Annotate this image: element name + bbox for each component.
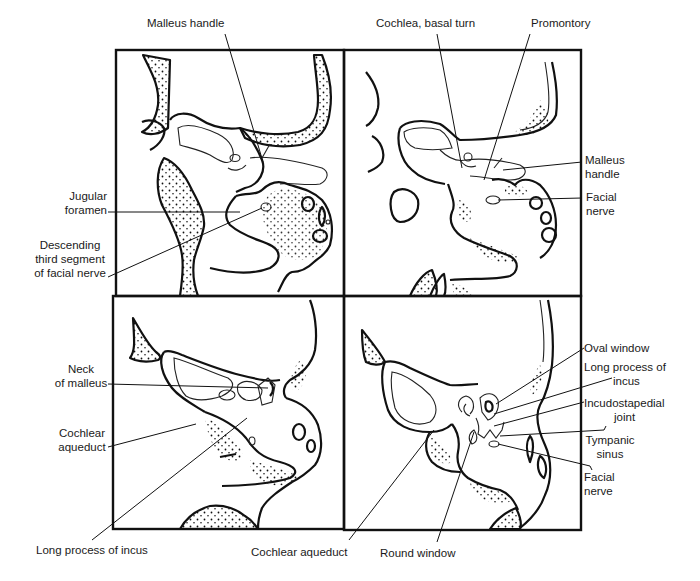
panel-bottom-right-drawing <box>362 300 553 529</box>
label-cochlear-aqueduct-bottom: Cochlear aqueduct <box>251 545 348 559</box>
label-neck-line2: of malleus <box>52 376 110 390</box>
label-malleus-handle-right: Malleus handle <box>585 153 625 181</box>
label-oval-window: Oval window <box>584 341 649 355</box>
label-facial-br-line2: nerve <box>584 484 615 498</box>
label-long-process-right-line1: Long process of <box>584 360 666 374</box>
label-jugular-line2: foramen <box>65 203 107 217</box>
label-descending-line2: third segment <box>30 252 110 266</box>
label-facial-tr-line1: Facial <box>586 190 617 204</box>
label-tympanic-line2: sinus <box>584 447 636 461</box>
label-jugular-line1: Jugular <box>65 189 107 203</box>
label-neck-line1: Neck <box>52 362 110 376</box>
panel-top-right-drawing <box>366 62 557 296</box>
label-long-process-right-line2: incus <box>584 374 666 388</box>
label-facial-nerve-top-right: Facial nerve <box>586 190 617 218</box>
label-incudostapedial-line1: Incudostapedial <box>584 396 665 410</box>
label-long-process-incus-bottom: Long process of incus <box>36 543 148 557</box>
label-facial-nerve-bottom-right: Facial nerve <box>584 470 615 498</box>
panel-bottom-left-drawing <box>130 300 321 529</box>
label-cochlear-aq-left-line2: aqueduct <box>56 440 108 454</box>
label-tympanic-sinus: Tympanic sinus <box>584 433 636 461</box>
leader-lines <box>92 34 612 542</box>
label-round-window: Round window <box>380 546 455 560</box>
panel-top-left-drawing <box>142 55 332 296</box>
frame-top-left <box>116 50 344 296</box>
label-facial-tr-line2: nerve <box>586 204 617 218</box>
label-facial-br-line1: Facial <box>584 470 615 484</box>
frame-top-right <box>344 50 581 296</box>
label-descending-third-segment: Descending third segment of facial nerve <box>30 238 110 280</box>
label-cochlear-aqueduct-left: Cochlear aqueduct <box>56 426 108 454</box>
label-long-process-incus-right: Long process of incus <box>584 360 666 388</box>
label-cochlea-basal-turn: Cochlea, basal turn <box>376 16 475 30</box>
label-promontory: Promontory <box>531 16 590 30</box>
label-incudostapedial-line2: joint <box>584 410 665 424</box>
label-malleus-right-line2: handle <box>585 167 625 181</box>
label-cochlear-aq-left-line1: Cochlear <box>56 426 108 440</box>
label-jugular-foramen: Jugular foramen <box>65 189 107 217</box>
label-descending-line1: Descending <box>30 238 110 252</box>
label-tympanic-line1: Tympanic <box>584 433 636 447</box>
label-neck-of-malleus: Neck of malleus <box>52 362 110 390</box>
label-malleus-right-line1: Malleus <box>585 153 625 167</box>
label-descending-line3: of facial nerve <box>30 266 110 280</box>
label-malleus-handle-top: Malleus handle <box>147 16 224 30</box>
label-incudostapedial-joint: Incudostapedial joint <box>584 396 665 424</box>
